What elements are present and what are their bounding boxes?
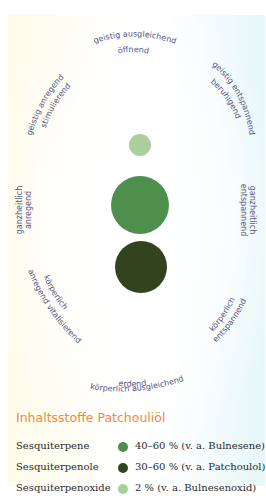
medium-green-circle	[111, 176, 169, 234]
ingredient-row: Sesquiterpene 40–60 % (v. a. Bulnesene)	[16, 440, 266, 456]
ingredient-color-dot	[118, 442, 128, 452]
label-bottom-left-line2: anregend vitalisierend	[26, 268, 83, 345]
svg-text:ganzheitlich: ganzheitlich	[248, 186, 257, 235]
label-left: ganzheitlich anregend	[15, 186, 33, 235]
svg-text:ganzheitlich: ganzheitlich	[15, 186, 24, 235]
ingredient-name: Sesquiterpenoxide	[16, 482, 111, 493]
svg-text:anregend: anregend	[24, 191, 33, 229]
ingredient-color-dot	[118, 484, 128, 494]
label-top-right-line1: geistig entspannend	[210, 60, 256, 136]
ingredient-row: Sesquiterpenoxide 2 % (v. a. Bulnesenoxi…	[16, 482, 266, 498]
ingredient-name: Sesquiterpenole	[16, 461, 99, 472]
ingredient-value: 40–60 % (v. a. Bulnesene)	[135, 440, 265, 451]
ingredient-value: 30–60 % (v. a. Patchoulol)	[135, 461, 265, 472]
label-top-line2: öffnend	[117, 45, 150, 56]
small-light-green-circle	[129, 134, 151, 156]
ingredient-value: 2 % (v. a. Bulnesenoxid)	[135, 482, 256, 493]
ingredient-row: Sesquiterpenole 30–60 % (v. a. Patchoulo…	[16, 461, 266, 477]
label-bottom-line2: körperlich ausgleichend	[90, 374, 185, 394]
label-top-line1: geistig ausgleichend	[92, 29, 177, 45]
dark-green-circle	[115, 241, 167, 293]
ingredient-name: Sesquiterpene	[16, 440, 89, 451]
ingredient-color-dot	[118, 463, 128, 473]
svg-text:entspannend: entspannend	[239, 184, 248, 237]
ingredients-title: Inhaltsstoffe Patchouliöl	[16, 410, 165, 425]
label-right: ganzheitlich entspannend	[239, 184, 257, 237]
